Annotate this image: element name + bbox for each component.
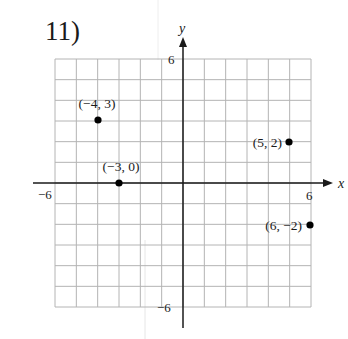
point-1: (−4, 3) [79,96,116,124]
point-4: (6, −2) [265,218,313,233]
point-label: (6, −2) [265,218,302,233]
point-label: (5, 2) [253,135,282,150]
x-axis-arrow-icon [323,179,333,187]
coordinate-plane: x y −6 6 6 −6 (−4, 3) (−3, 0) (5, 2) (6,… [0,0,348,339]
x-max-tick-label: 6 [306,188,313,203]
graph-figure: 11) x y −6 6 6 −6 (−4, 3) (−3, 0) [0,0,348,339]
x-min-tick-label: −6 [38,187,52,202]
point-3: (5, 2) [253,135,293,150]
y-axis-arrow-icon [179,37,187,47]
x-axis-label: x [337,176,345,191]
point-label: (−4, 3) [79,96,116,111]
y-axis: y [177,21,187,328]
y-max-tick-label: 6 [168,52,175,67]
y-min-tick-label: −6 [157,300,171,315]
x-axis: x [33,176,345,191]
problem-number: 11) [45,16,80,47]
y-axis-label: y [177,21,186,36]
point-label: (−3, 0) [103,159,140,174]
